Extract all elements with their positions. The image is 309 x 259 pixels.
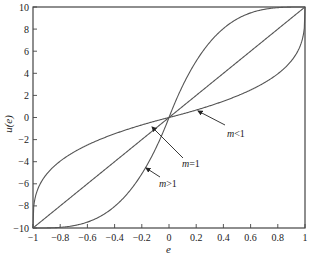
arrow-m-eq-1 [152, 127, 183, 158]
y-tick-label: 4 [24, 68, 29, 79]
y-tick-label: −8 [18, 200, 29, 211]
x-tick-label: 0.8 [272, 232, 285, 243]
y-tick-label: 6 [24, 46, 29, 57]
nonlinear-gain-chart: −1−0.8−0.6−0.4−0.200.20.40.60.81 −10−8−6… [0, 0, 309, 259]
annotation-m-eq-1: m=1 [182, 158, 200, 169]
y-tick-label: 10 [19, 2, 29, 13]
annotation-m-lt-1: m<1 [227, 128, 245, 139]
y-tick-label: −6 [18, 178, 29, 189]
y-tick-label: 2 [24, 90, 29, 101]
y-tick-label: 0 [24, 112, 29, 123]
annotation-m-gt-1: m>1 [159, 178, 177, 189]
y-tick-label: −10 [13, 223, 29, 234]
y-tick-label: −2 [18, 134, 29, 145]
arrow-m-lt-1 [198, 111, 225, 125]
series-lines [33, 7, 305, 228]
x-tick-label: −0.4 [106, 232, 124, 243]
y-axis-label: u(e) [2, 115, 15, 133]
x-axis-label: e [166, 243, 171, 255]
x-tick-label: 1 [303, 232, 308, 243]
x-tick-label: 0.6 [244, 232, 257, 243]
x-tick-label: 0.2 [190, 232, 203, 243]
x-tick-label: −1 [28, 232, 39, 243]
x-tick-label: 0 [167, 232, 172, 243]
y-tick-label: −4 [18, 156, 29, 167]
x-tick-label: 0.4 [217, 232, 230, 243]
arrow-m-gt-1 [146, 168, 160, 177]
x-tick-label: −0.2 [133, 232, 151, 243]
x-tick-label: −0.8 [51, 232, 69, 243]
x-tick-label: −0.6 [78, 232, 96, 243]
y-tick-label: 8 [24, 24, 29, 35]
